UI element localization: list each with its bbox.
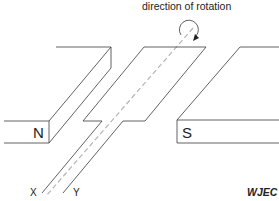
- terminal-x-label: X: [30, 187, 37, 198]
- terminal-y-label: Y: [73, 187, 80, 198]
- rotation-arrow-icon: [179, 20, 199, 41]
- south-pole-label: S: [182, 124, 192, 141]
- rotation-label: direction of rotation: [142, 0, 231, 12]
- south-magnet: [177, 47, 279, 143]
- north-magnet: [4, 47, 111, 143]
- rotation-axis: [46, 28, 193, 196]
- wjec-credit: WJEC: [247, 186, 278, 198]
- motor-diagram: direction of rotation N S X Y WJEC: [0, 0, 279, 201]
- north-pole-label: N: [33, 124, 44, 141]
